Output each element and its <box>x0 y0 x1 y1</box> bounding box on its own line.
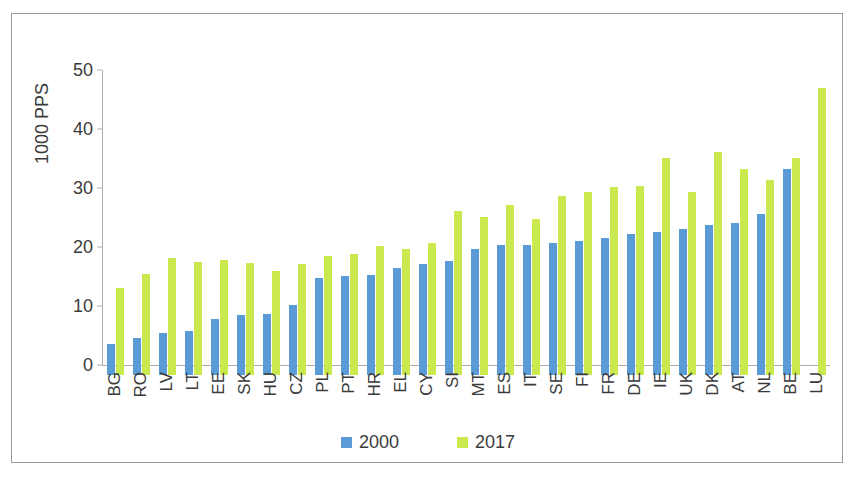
chart-legend: 20002017 <box>12 432 844 453</box>
bar-2000-CZ[interactable] <box>289 305 297 375</box>
x-label-cell: BE <box>778 370 804 426</box>
x-label-cell: PL <box>310 370 336 426</box>
x-tick-label: BE <box>781 372 801 395</box>
bar-group <box>622 80 648 375</box>
x-tick-label: PT <box>339 372 359 394</box>
bar-group <box>700 80 726 375</box>
bar-2017-DK[interactable] <box>714 152 722 375</box>
x-tick-label: CZ <box>287 372 307 395</box>
bar-2017-ES[interactable] <box>506 205 514 375</box>
bar-group <box>414 80 440 375</box>
bar-2000-PL[interactable] <box>315 278 323 375</box>
bar-group <box>336 80 362 375</box>
bar-2000-DE[interactable] <box>627 234 635 375</box>
bar-2000-LT[interactable] <box>185 331 193 375</box>
bar-2000-SI[interactable] <box>445 261 453 375</box>
legend-swatch-icon <box>341 437 352 448</box>
x-tick-label: HU <box>261 372 281 397</box>
bar-group <box>310 80 336 375</box>
bar-2000-EL[interactable] <box>393 268 401 375</box>
chart-frame: 1000 PPS 01020304050 BGROLVLTEESKHUCZPLP… <box>11 13 843 463</box>
bar-2017-MT[interactable] <box>480 217 488 375</box>
bar-2017-FR[interactable] <box>610 187 618 375</box>
bar-2017-FI[interactable] <box>584 192 592 375</box>
y-tick-label: 40 <box>73 119 93 140</box>
bar-2000-SK[interactable] <box>237 315 245 375</box>
bar-2000-NL[interactable] <box>757 214 765 375</box>
bar-2000-ES[interactable] <box>497 245 505 375</box>
bar-2017-HU[interactable] <box>272 271 280 375</box>
legend-label: 2017 <box>475 432 515 453</box>
x-label-cell: DE <box>622 370 648 426</box>
x-label-cell: RO <box>128 370 154 426</box>
bar-2000-UK[interactable] <box>679 229 687 375</box>
legend-item-2017[interactable]: 2017 <box>457 432 515 453</box>
bar-group <box>674 80 700 375</box>
x-tick-label: PL <box>313 372 333 393</box>
bar-2017-LT[interactable] <box>194 262 202 375</box>
bar-group <box>440 80 466 375</box>
bar-2017-RO[interactable] <box>142 274 150 375</box>
bar-2000-LV[interactable] <box>159 333 167 375</box>
bar-group <box>726 80 752 375</box>
bar-2017-EE[interactable] <box>220 260 228 375</box>
bar-group <box>154 80 180 375</box>
x-tick-label: CY <box>417 372 437 396</box>
bar-2017-CY[interactable] <box>428 243 436 375</box>
y-tick-label: 20 <box>73 237 93 258</box>
bar-group <box>466 80 492 375</box>
bar-group <box>180 80 206 375</box>
bar-2017-SI[interactable] <box>454 211 462 375</box>
x-label-cell: HR <box>362 370 388 426</box>
x-tick-label: DK <box>703 372 723 396</box>
bar-2000-DK[interactable] <box>705 225 713 375</box>
x-label-cell: SK <box>232 370 258 426</box>
bar-2017-PT[interactable] <box>350 254 358 375</box>
bar-group <box>128 80 154 375</box>
x-tick-label: AT <box>729 372 749 392</box>
bar-group <box>258 80 284 375</box>
bar-2000-EE[interactable] <box>211 319 219 375</box>
x-label-cell: SI <box>440 370 466 426</box>
bar-2017-PL[interactable] <box>324 256 332 375</box>
bar-2000-HU[interactable] <box>263 314 271 375</box>
bar-2017-AT[interactable] <box>740 169 748 375</box>
bar-2000-PT[interactable] <box>341 276 349 375</box>
bar-2000-HR[interactable] <box>367 275 375 375</box>
bar-2017-BE[interactable] <box>792 158 800 375</box>
bar-2017-IE[interactable] <box>662 158 670 375</box>
bar-2017-NL[interactable] <box>766 180 774 375</box>
bar-2017-UK[interactable] <box>688 192 696 375</box>
bar-2017-IT[interactable] <box>532 219 540 375</box>
x-label-cell: FI <box>570 370 596 426</box>
bar-2000-FR[interactable] <box>601 238 609 375</box>
bar-2000-IT[interactable] <box>523 245 531 375</box>
bar-2017-SE[interactable] <box>558 196 566 375</box>
bar-2017-CZ[interactable] <box>298 264 306 376</box>
bar-group <box>206 80 232 375</box>
bar-2000-SE[interactable] <box>549 243 557 375</box>
bar-2000-AT[interactable] <box>731 223 739 375</box>
bar-2017-HR[interactable] <box>376 246 384 375</box>
x-label-cell: IE <box>648 370 674 426</box>
x-tick-label: NL <box>755 372 775 394</box>
bar-2000-MT[interactable] <box>471 249 479 375</box>
bar-2000-IE[interactable] <box>653 232 661 375</box>
bar-2000-BE[interactable] <box>783 169 791 376</box>
bar-2000-FI[interactable] <box>575 241 583 375</box>
x-label-cell: LV <box>154 370 180 426</box>
x-label-cell: EE <box>206 370 232 426</box>
bar-2017-BG[interactable] <box>116 288 124 375</box>
bar-2000-CY[interactable] <box>419 264 427 375</box>
bar-2017-LV[interactable] <box>168 258 176 375</box>
bar-2017-LU[interactable] <box>818 88 826 375</box>
x-tick-label: DE <box>625 372 645 396</box>
x-tick-label: SI <box>443 372 463 388</box>
legend-item-2000[interactable]: 2000 <box>341 432 399 453</box>
x-tick-label: ES <box>495 372 515 395</box>
y-tick-label: 10 <box>73 296 93 317</box>
bar-2017-DE[interactable] <box>636 186 644 375</box>
x-tick-label: LT <box>183 372 203 391</box>
bar-2017-EL[interactable] <box>402 249 410 375</box>
bar-2017-SK[interactable] <box>246 263 254 375</box>
